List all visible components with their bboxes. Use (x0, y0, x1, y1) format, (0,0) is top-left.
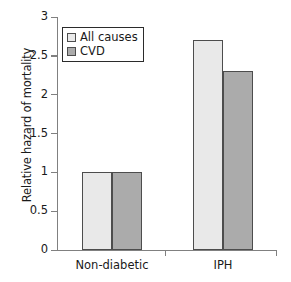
x-axis-category-label: Non-diabetic (52, 259, 172, 272)
y-axis-tick-label: 0 (8, 244, 48, 255)
bar-non-diabetic-cvd (112, 172, 142, 250)
bar-iph-all-causes (193, 40, 223, 250)
y-axis-tick-label: 2 (8, 89, 48, 100)
legend-item: CVD (67, 44, 138, 58)
x-axis-category-label: IPH (163, 259, 283, 272)
bar-chart: Relative hazard of mortality 00.511.522.… (0, 0, 291, 282)
x-axis-line (57, 250, 277, 251)
chart-legend: All causesCVD (62, 27, 144, 62)
y-axis-tick-label: 2.5 (8, 50, 48, 61)
y-axis-tick-label: 3 (8, 11, 48, 22)
legend-swatch-icon (67, 47, 76, 56)
bar-iph-cvd (223, 71, 253, 250)
y-axis-tick-label: 1 (8, 166, 48, 177)
y-axis-tick-label: 1.5 (8, 128, 48, 139)
legend-swatch-icon (67, 33, 76, 42)
y-axis-tick-label: 0.5 (8, 205, 48, 216)
bar-non-diabetic-all-causes (82, 172, 112, 250)
x-axis-tick (165, 250, 166, 256)
legend-item-label: All causes (80, 31, 138, 44)
legend-item-label: CVD (80, 45, 105, 58)
legend-item: All causes (67, 30, 138, 44)
x-axis-tick (276, 250, 277, 256)
